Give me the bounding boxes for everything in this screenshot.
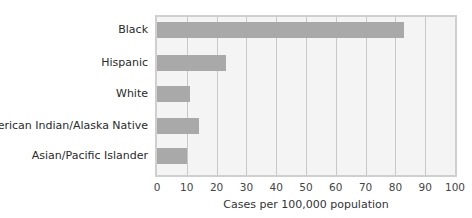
x-tick-label: 0 (154, 181, 161, 193)
x-tick-label: 100 (445, 181, 465, 193)
x-tick-label: 60 (329, 181, 342, 193)
x-tick-label: 40 (270, 181, 283, 193)
bar (157, 148, 187, 164)
gridline (395, 17, 396, 175)
category-label: Asian/Pacific Islander (32, 149, 148, 163)
gridline (217, 17, 218, 175)
gridline (336, 17, 337, 175)
x-axis-label: Cases per 100,000 population (155, 198, 457, 211)
horizontal-bar-chart: BlackHispanicWhiteAmerican Indian/Alaska… (0, 0, 472, 218)
x-tick-label: 70 (359, 181, 372, 193)
gridline (276, 17, 277, 175)
x-tick-label: 90 (419, 181, 432, 193)
bar (157, 118, 199, 134)
category-label: Black (118, 23, 148, 37)
bar (157, 55, 226, 71)
gridline (366, 17, 367, 175)
x-tick-label: 80 (389, 181, 402, 193)
x-tick-label: 50 (299, 181, 312, 193)
bar (157, 86, 190, 102)
plot-area (155, 15, 457, 177)
gridline (425, 17, 426, 175)
x-tick-label: 10 (180, 181, 193, 193)
bar (157, 22, 404, 38)
category-label: American Indian/Alaska Native (0, 119, 148, 133)
category-label: Hispanic (101, 56, 148, 70)
gridline (306, 17, 307, 175)
category-label: White (116, 87, 148, 101)
x-tick-label: 20 (210, 181, 223, 193)
gridline (246, 17, 247, 175)
x-tick-label: 30 (240, 181, 253, 193)
